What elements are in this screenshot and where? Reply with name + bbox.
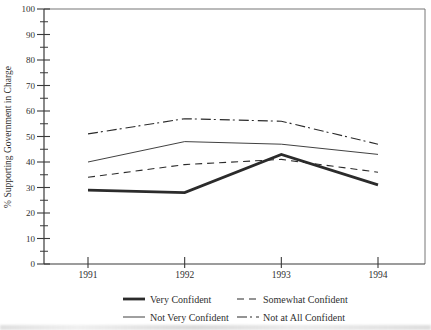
- legend-label: Somewhat Confident: [263, 294, 348, 305]
- y-tick-label: 50: [26, 132, 36, 142]
- y-tick-label: 40: [26, 157, 36, 167]
- legend: Very ConfidentSomewhat ConfidentNot Very…: [123, 294, 348, 323]
- y-tick-label: 10: [26, 234, 36, 244]
- legend-label: Not Very Confident: [150, 312, 229, 323]
- y-tick-label: 0: [31, 259, 36, 269]
- x-tick-label: 1992: [175, 270, 194, 280]
- series-line-not-very-confident: [88, 142, 378, 162]
- y-axis-label: % Supporting Government in Charge: [3, 66, 13, 208]
- confidence-support-figure: 0102030405060708090100 1991199219931994 …: [0, 0, 431, 330]
- plot-frame: [44, 9, 425, 264]
- y-tick-label: 70: [26, 81, 36, 91]
- y-tick-label: 60: [26, 106, 36, 116]
- x-tick-label: 1993: [272, 270, 291, 280]
- legend-label: Not at All Confident: [263, 312, 345, 323]
- y-tick-label: 100: [22, 4, 36, 14]
- x-axis-ticks: 1991199219931994: [79, 257, 388, 280]
- y-tick-label: 30: [26, 183, 36, 193]
- series-line-very-confident: [88, 154, 378, 192]
- y-tick-label: 90: [26, 30, 36, 40]
- x-tick-label: 1991: [79, 270, 98, 280]
- scan-artifact: [0, 325, 431, 330]
- y-axis-ticks: 0102030405060708090100: [22, 4, 51, 269]
- line-chart: 0102030405060708090100 1991199219931994 …: [0, 0, 431, 330]
- data-series: [88, 119, 378, 193]
- y-tick-label: 20: [26, 208, 36, 218]
- series-line-not-at-all-confident: [88, 119, 378, 145]
- x-tick-label: 1994: [369, 270, 388, 280]
- legend-label: Very Confident: [150, 294, 212, 305]
- y-tick-label: 80: [26, 55, 36, 65]
